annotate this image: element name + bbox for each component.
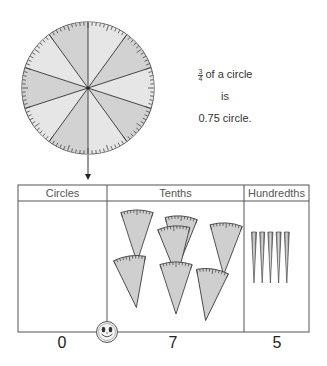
tenth-wedge (190, 267, 229, 323)
hundredth-sliver (268, 232, 273, 283)
hundredth-sliver (252, 232, 257, 283)
header-hundredths: Hundredths (244, 186, 309, 201)
tenth-wedge (121, 210, 153, 262)
conversion-caption: 3 4 of a circle is 0.75 circle. (190, 63, 260, 129)
fraction-three-quarters: 3 4 (198, 69, 204, 82)
place-value-table (18, 185, 309, 332)
count-tenths: 7 (158, 334, 188, 352)
count-circles: 0 (47, 334, 77, 352)
tenth-wedge (160, 262, 192, 314)
hundredth-sliver (276, 232, 281, 283)
caption-of-a-circle: of a circle (205, 68, 252, 80)
tenths-pieces (113, 210, 242, 323)
hundredth-sliver (260, 232, 265, 283)
count-hundredths: 5 (262, 334, 292, 352)
tenth-wedge (113, 254, 152, 310)
header-tenths: Tenths (107, 186, 244, 201)
hundredth-sliver (284, 232, 289, 283)
down-arrow-icon (85, 155, 91, 180)
diagram-canvas (0, 0, 327, 366)
fraction-denominator: 4 (198, 76, 204, 82)
caption-line-1: 3 4 of a circle (190, 63, 260, 85)
caption-is: is (190, 85, 260, 107)
header-circles: Circles (18, 186, 107, 201)
tenth-wedge (208, 222, 243, 276)
whole-circle (22, 22, 154, 154)
hundredths-pieces (252, 232, 290, 283)
caption-decimal-value: 0.75 circle. (190, 107, 260, 129)
smiley-decimal-point-icon (97, 322, 118, 343)
